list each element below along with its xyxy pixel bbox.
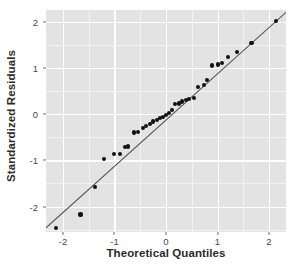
x-tick-label: 0 [163,236,168,247]
x-tick-label: 2 [266,236,271,247]
x-tick-mark [269,232,270,235]
x-axis-ticks: -2-1012 [0,0,297,271]
qq-plot: Standardized Residuals -2-1012 -2-1012 T… [0,0,297,271]
x-tick-mark [62,232,63,235]
x-tick-label: 1 [215,236,220,247]
x-tick-label: -1 [110,236,118,247]
x-tick-mark [166,232,167,235]
x-tick-mark [217,232,218,235]
x-axis-title: Theoretical Quantiles [46,247,286,259]
x-tick-mark [114,232,115,235]
x-tick-label: -2 [59,236,67,247]
